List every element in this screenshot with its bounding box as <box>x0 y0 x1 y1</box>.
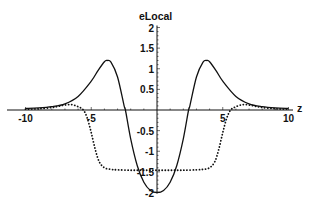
x-tick-label: -10 <box>18 113 33 124</box>
axes: -10-5510 21.510.5-0.5-1-1.5-2 <box>7 23 294 199</box>
y-axis-label: eLocal <box>139 10 172 22</box>
y-tick-label: 0.5 <box>140 84 154 95</box>
x-tick-label: -5 <box>87 113 96 124</box>
y-tick-label: 2 <box>148 23 154 34</box>
chart-canvas: -10-5510 21.510.5-0.5-1-1.5-2 z eLocal <box>0 0 315 209</box>
x-tick-label: 10 <box>283 113 295 124</box>
y-tick-label: -1 <box>145 146 154 157</box>
y-tick-label: 1 <box>148 64 154 75</box>
y-tick-label: -0.5 <box>137 126 155 137</box>
x-axis-label: z <box>297 102 302 114</box>
y-tick-label: 1.5 <box>140 43 154 54</box>
